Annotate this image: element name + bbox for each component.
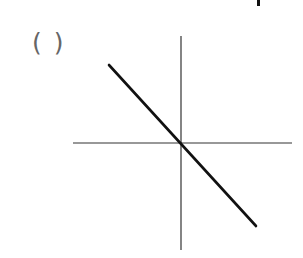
- function-line: [109, 65, 256, 226]
- coordinate-graph: [0, 0, 303, 258]
